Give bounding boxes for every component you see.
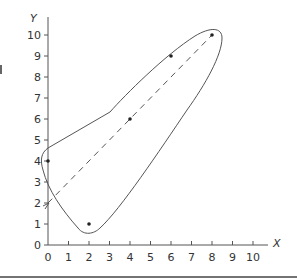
y-tick-label: 7 [34, 92, 41, 105]
x-tick-label: 2 [86, 251, 93, 264]
x-tick-label: 0 [45, 251, 52, 264]
y-axis-title: Y [30, 12, 38, 25]
data-point [87, 222, 91, 226]
data-point [169, 54, 173, 58]
data-point [128, 117, 132, 121]
x-tick-label: 9 [229, 251, 236, 264]
y-tick-label: 3 [34, 176, 41, 189]
y-tick-label: 4 [34, 155, 41, 168]
y-tick-label: 9 [34, 50, 41, 63]
y-tick-label: 0 [34, 239, 41, 252]
x-tick-label: 4 [127, 251, 134, 264]
y-tick-label: 2 [34, 197, 41, 210]
scatter-chart: 012345678910012345678910 Y X [0, 0, 297, 280]
y-tick-label: 10 [27, 29, 41, 42]
x-tick-label: 6 [168, 251, 175, 264]
envelope-curve [41, 29, 222, 233]
x-tick-label: 3 [106, 251, 113, 264]
y-tick-label: 8 [34, 71, 41, 84]
x-tick-label: 5 [147, 251, 154, 264]
data-points [46, 33, 214, 226]
y-tick-label: 6 [34, 113, 41, 126]
x-tick-label: 7 [188, 251, 195, 264]
data-point [210, 33, 214, 37]
data-point [46, 159, 50, 163]
x-tick-label: 10 [246, 251, 260, 264]
axis-ticks: 012345678910012345678910 [27, 29, 260, 264]
x-axis-title: X [272, 237, 281, 250]
x-tick-label: 1 [65, 251, 72, 264]
y-tick-label: 1 [34, 218, 41, 231]
y-tick-label: 5 [34, 134, 41, 147]
axes [48, 17, 268, 245]
x-tick-label: 8 [209, 251, 216, 264]
